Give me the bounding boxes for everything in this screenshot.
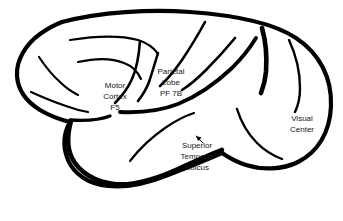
visual-center-label-line-2: Center: [290, 125, 314, 134]
visual-center-label-line-1: Visual: [291, 114, 313, 123]
parietal-lobe-label-line-3: PF 7B: [160, 89, 182, 98]
brain-illustration-svg: MotorCortexF5ParietalLobePF 7BSuperiorTe…: [0, 0, 343, 221]
superior-temporal-sulcus-label-line-3: Sulcus: [185, 163, 209, 172]
superior-temporal-sulcus-label: SuperiorTemporalSulcus: [181, 141, 214, 172]
superior-temporal-sulcus-label-line-1: Superior: [182, 141, 213, 150]
brain-diagram: MotorCortexF5ParietalLobePF 7BSuperiorTe…: [0, 0, 343, 221]
superior-temporal-sulcus-label-line-2: Temporal: [181, 152, 214, 161]
motor-cortex-label-line-2: Cortex: [103, 92, 127, 101]
motor-cortex-label-line-3: F5: [110, 103, 120, 112]
parietal-lobe-label-line-2: Lobe: [162, 78, 180, 87]
motor-cortex-label-line-1: Motor: [105, 81, 126, 90]
parietal-lobe-label-line-1: Parietal: [157, 67, 184, 76]
